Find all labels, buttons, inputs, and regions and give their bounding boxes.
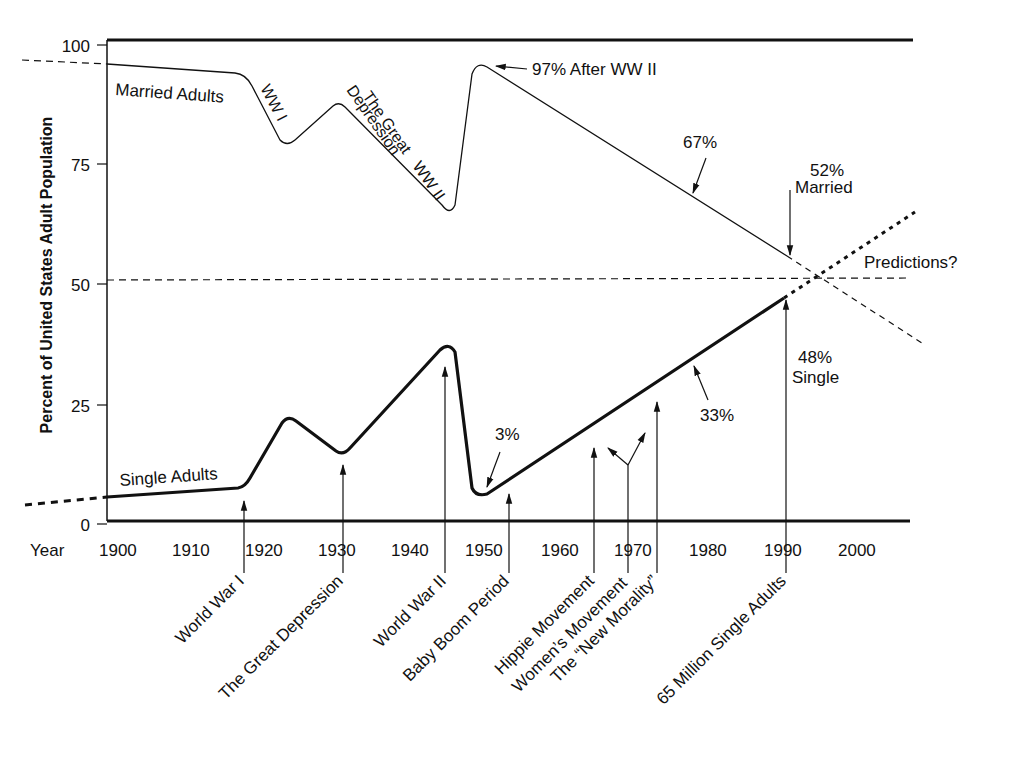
chart: 100 75 50 25 0 Percent of United States … bbox=[0, 0, 1013, 763]
event-labels: World War I The Great Depression World W… bbox=[172, 571, 790, 708]
x-tick-labels: Year 1900 1910 1920 1930 1940 1950 1960 … bbox=[30, 541, 876, 560]
x-tick-1980: 1980 bbox=[689, 541, 727, 560]
single-adults-label: Single Adults bbox=[119, 464, 218, 490]
x-tick-1920: 1920 bbox=[245, 541, 283, 560]
event-world-war-1: World War I bbox=[172, 571, 248, 647]
pct3-label: 3% bbox=[495, 425, 520, 444]
married-word-label: Married bbox=[795, 178, 853, 197]
pct33-label: 33% bbox=[700, 406, 734, 425]
x-tick-1960: 1960 bbox=[541, 541, 579, 560]
x-tick-1900: 1900 bbox=[99, 541, 137, 560]
x-tick-1910: 1910 bbox=[172, 541, 210, 560]
event-65-million-single: 65 Million Single Adults bbox=[653, 571, 790, 708]
pct48-label: 48% bbox=[798, 348, 832, 367]
married-adults-label: Married Adults bbox=[115, 80, 225, 107]
after-ww2-arrow bbox=[496, 66, 527, 69]
pct67-label: 67% bbox=[683, 133, 717, 152]
after-ww2-label: 97% After WW II bbox=[532, 60, 657, 79]
y-tick-labels: 100 75 50 25 0 bbox=[62, 37, 90, 535]
x-tick-1930: 1930 bbox=[318, 541, 356, 560]
x-tick-1950: 1950 bbox=[465, 541, 503, 560]
x-axis-label: Year bbox=[30, 541, 65, 560]
pct3-arrow bbox=[487, 452, 500, 487]
pct33-arrow bbox=[694, 366, 708, 400]
fifty-percent-line bbox=[107, 278, 910, 280]
x-tick-1940: 1940 bbox=[391, 541, 429, 560]
x-tick-1970: 1970 bbox=[614, 541, 652, 560]
x-tick-1990: 1990 bbox=[764, 541, 802, 560]
y-tick-50: 50 bbox=[71, 276, 90, 295]
ww2-label: WW II bbox=[410, 158, 449, 203]
single-adults-series bbox=[25, 212, 915, 505]
y-tick-0: 0 bbox=[81, 516, 90, 535]
y-tick-75: 75 bbox=[71, 156, 90, 175]
y-tick-100: 100 bbox=[62, 37, 90, 56]
x-tick-2000: 2000 bbox=[838, 541, 876, 560]
pct67-arrow bbox=[693, 158, 706, 193]
y-axis-label: Percent of United States Adult Populatio… bbox=[38, 117, 55, 434]
single-word-label: Single bbox=[792, 368, 839, 387]
predictions-label: Predictions? bbox=[864, 253, 958, 272]
y-tick-25: 25 bbox=[71, 397, 90, 416]
axes bbox=[97, 40, 913, 524]
ww1-label: WW I bbox=[257, 81, 290, 123]
